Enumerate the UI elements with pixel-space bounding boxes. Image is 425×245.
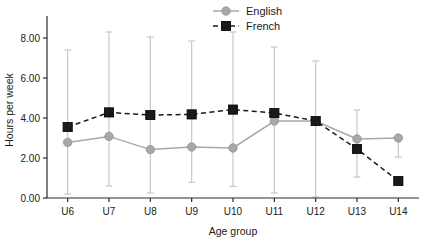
x-tick-label-U11: U11: [266, 206, 284, 217]
y-tick-label-3: 6.00: [21, 73, 41, 84]
y-tick-label-0: 0.00: [21, 193, 41, 204]
data-point-french-U10: [228, 105, 237, 114]
y-axis-title: Hours per week: [3, 72, 15, 146]
data-point-english-U7: [105, 132, 113, 140]
data-point-english-U11: [270, 117, 278, 125]
data-point-english-U13: [353, 135, 361, 143]
x-tick-label-U6: U6: [61, 206, 74, 217]
data-point-french-U6: [63, 122, 72, 131]
x-tick-label-U13: U13: [348, 206, 367, 217]
data-point-french-U13: [352, 144, 361, 153]
x-tick-label-U8: U8: [144, 206, 157, 217]
x-tick-label-U14: U14: [389, 206, 408, 217]
legend-marker-english: [222, 7, 230, 15]
legend-label-french: French: [246, 20, 280, 32]
x-tick-label-U10: U10: [224, 206, 243, 217]
legend-marker-french: [221, 21, 230, 30]
x-tick-label-U7: U7: [103, 206, 116, 217]
data-point-french-U9: [187, 110, 196, 119]
legend-label-english: English: [246, 5, 282, 17]
data-point-english-U10: [229, 144, 237, 152]
chart-figure: 0.002.004.006.008.00U6U7U8U9U10U11U12U13…: [0, 0, 425, 245]
data-point-french-U7: [104, 108, 113, 117]
x-tick-label-U9: U9: [185, 206, 198, 217]
data-point-english-U6: [63, 138, 71, 146]
hours-per-week-line-chart: 0.002.004.006.008.00U6U7U8U9U10U11U12U13…: [0, 0, 425, 245]
data-point-english-U8: [146, 145, 154, 153]
y-tick-label-4: 8.00: [21, 33, 41, 44]
data-point-english-U9: [187, 143, 195, 151]
y-tick-label-1: 2.00: [21, 153, 41, 164]
x-tick-label-U12: U12: [306, 206, 325, 217]
data-point-french-U12: [311, 116, 320, 125]
data-point-french-U14: [394, 176, 403, 185]
y-tick-label-2: 4.00: [21, 113, 41, 124]
x-axis-title: Age group: [209, 225, 258, 237]
data-point-french-U8: [146, 110, 155, 119]
data-point-english-U14: [394, 134, 402, 142]
data-point-french-U11: [270, 108, 279, 117]
